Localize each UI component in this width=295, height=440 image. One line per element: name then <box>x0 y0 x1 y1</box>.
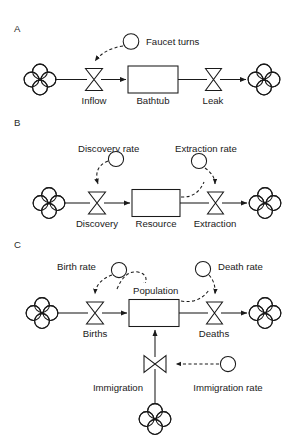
valve-deaths <box>207 302 223 324</box>
valve-label-immigration: Immigration <box>93 382 143 393</box>
panel-label-a: A <box>14 23 21 34</box>
panel-label-c: C <box>14 239 21 250</box>
converter-label-death-rate: Death rate <box>218 261 263 272</box>
converter-label-discovery-rate: Discovery rate <box>78 143 139 154</box>
valve-label-births: Births <box>83 328 108 339</box>
stock-label-bathtub: Bathtub <box>136 95 169 106</box>
valve-leak <box>206 69 222 91</box>
sink-cloud-a <box>248 64 280 95</box>
influence-discoveryrate-to-discovery <box>97 161 108 184</box>
valve-births <box>87 302 104 324</box>
valve-label-extraction: Extraction <box>194 218 237 229</box>
converter-label-faucet-turns: Faucet turns <box>146 36 200 47</box>
converter-extraction-rate <box>191 153 206 168</box>
sink-cloud-c <box>249 298 281 329</box>
converter-label-immigration-rate: Immigration rate <box>193 382 262 393</box>
bottom-cloud-c <box>139 404 171 435</box>
sink-cloud-b <box>249 188 281 219</box>
source-cloud-c <box>26 298 58 329</box>
converter-label-extraction-rate: Extraction rate <box>175 143 237 154</box>
figure-canvas: A Inflow Bathtub Leak <box>0 0 295 440</box>
valve-discovery <box>89 192 106 214</box>
valve-label-inflow: Inflow <box>81 95 106 106</box>
valve-label-leak: Leak <box>203 95 224 106</box>
influence-faucet-to-inflow <box>95 46 123 61</box>
valve-label-deaths: Deaths <box>199 328 230 339</box>
stock-population <box>129 300 179 327</box>
converter-death-rate <box>195 261 210 276</box>
valve-inflow <box>86 69 103 91</box>
stock-and-flow-diagram: A Inflow Bathtub Leak <box>0 0 295 440</box>
stock-label-population: Population <box>133 285 178 296</box>
converter-immigration-rate <box>220 356 235 371</box>
stock-resource <box>132 190 180 217</box>
source-cloud-a <box>24 64 56 95</box>
valve-extraction <box>208 192 224 214</box>
influence-resource-to-extraction <box>181 182 204 197</box>
source-cloud-b <box>33 188 65 219</box>
influence-extractionrate-to-extraction <box>205 168 215 184</box>
converter-faucet-turns <box>123 34 139 50</box>
influence-deathrate-to-deaths <box>209 275 215 294</box>
valve-label-discovery: Discovery <box>76 218 118 229</box>
stock-label-resource: Resource <box>135 218 176 229</box>
panel-label-b: B <box>14 117 20 128</box>
stock-bathtub <box>128 66 178 93</box>
influence-birthrate-to-births <box>95 275 112 294</box>
converter-birth-rate <box>111 262 126 277</box>
converter-label-birth-rate: Birth rate <box>57 261 96 272</box>
converter-discovery-rate <box>108 151 123 166</box>
